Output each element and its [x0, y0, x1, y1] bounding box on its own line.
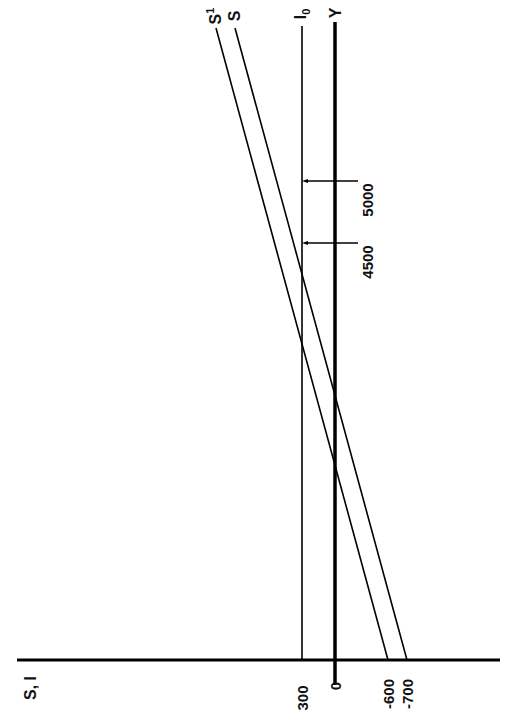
annotation-5000-label: 5000 — [359, 183, 376, 216]
annotation-4500-label: 4500 — [359, 245, 376, 278]
s-label: S — [226, 10, 243, 21]
svg-text:I0: I0 — [292, 9, 312, 20]
y-axis-title: Y — [327, 7, 344, 18]
svg-text:S1: S1 — [204, 8, 224, 25]
s1-label: S1 — [204, 8, 224, 25]
tick-label-0: 0 — [327, 682, 344, 690]
annotation-4500 — [302, 241, 358, 245]
annotation-5000 — [302, 179, 358, 183]
si-axis-title: S, I — [22, 676, 39, 700]
i0-label: I0 — [292, 9, 312, 20]
tick-label-300: 300 — [294, 685, 311, 710]
svg-text:S: S — [226, 10, 243, 21]
tick-label-minus-600: -600 — [380, 679, 397, 709]
s-line — [235, 28, 407, 660]
savings-investment-chart: 5000 4500 300 0 -600 -700 S, I Y I0 S S1 — [0, 0, 523, 727]
tick-label-minus-700: -700 — [399, 679, 416, 709]
